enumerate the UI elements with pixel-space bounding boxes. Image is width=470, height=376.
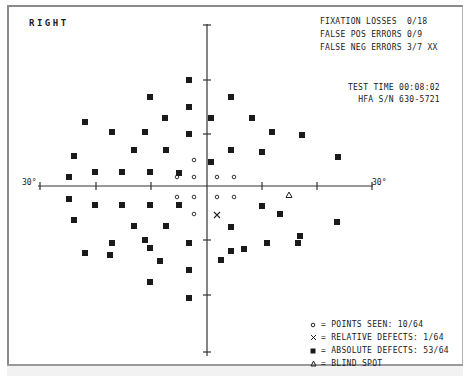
absolute-defect-point (269, 129, 275, 135)
seen-point (232, 195, 236, 199)
absolute-defect-point (107, 252, 113, 258)
legend-relative: = RELATIVE DEFECTS: 1/64 (308, 331, 449, 344)
absolute-defect-point (297, 233, 303, 239)
absolute-defect-point (295, 240, 301, 246)
circle-icon (308, 322, 318, 328)
seen-point (175, 195, 179, 199)
legend-absolute: = ABSOLUTE DEFECTS: 53/64 (308, 344, 449, 357)
absolute-defect-point (147, 169, 153, 175)
absolute-defect-point (109, 129, 115, 135)
absolute-defect-point (176, 170, 182, 176)
seen-point (215, 195, 219, 199)
absolute-defect-point (259, 203, 265, 209)
legend-blind-spot: = BLIND SPOT (308, 357, 449, 370)
absolute-defect-point (142, 129, 148, 135)
absolute-defect-point (66, 196, 72, 202)
absolute-defect-point (71, 153, 77, 159)
absolute-defect-point (186, 131, 192, 137)
absolute-defect-point (163, 223, 169, 229)
absolute-defect-point (249, 115, 255, 121)
absolute-defect-point (109, 240, 115, 246)
absolute-defect-point (335, 154, 341, 160)
absolute-defect-point (208, 159, 214, 165)
triangle-icon (308, 360, 318, 367)
absolute-defect-point (131, 147, 137, 153)
absolute-defect-point (259, 149, 265, 155)
seen-point (192, 212, 196, 216)
seen-point (192, 175, 196, 179)
absolute-defect-point (334, 219, 340, 225)
absolute-defect-point (82, 119, 88, 125)
absolute-defect-point (92, 169, 98, 175)
axis-ticks (40, 25, 372, 352)
absolute-defect-point (228, 224, 234, 230)
absolute-defect-point (147, 202, 153, 208)
absolute-defect-point (142, 237, 148, 243)
absolute-defect-point (157, 258, 163, 264)
absolute-defect-point (119, 202, 125, 208)
absolute-defect-point (147, 279, 153, 285)
absolute-defect-point (208, 115, 214, 121)
absolute-defect-point (147, 94, 153, 100)
test-points (66, 77, 341, 301)
absolute-defect-point (228, 248, 234, 254)
legend-seen: = POINTS SEEN: 10/64 (308, 318, 449, 331)
legend: = POINTS SEEN: 10/64 = RELATIVE DEFECTS:… (308, 318, 449, 370)
absolute-defect-point (228, 94, 234, 100)
absolute-defect-point (186, 240, 192, 246)
absolute-defect-point (218, 257, 224, 263)
x-icon (308, 334, 318, 341)
absolute-defect-point (66, 174, 72, 180)
absolute-defect-point (186, 104, 192, 110)
absolute-defect-point (131, 223, 137, 229)
seen-point (192, 158, 196, 162)
seen-point (215, 175, 219, 179)
absolute-defect-point (186, 267, 192, 273)
absolute-defect-point (186, 295, 192, 301)
absolute-defect-point (71, 217, 77, 223)
square-icon (308, 348, 318, 354)
absolute-defect-point (277, 211, 283, 217)
relative-defect-point (214, 212, 220, 218)
absolute-defect-point (186, 77, 192, 83)
absolute-defect-point (228, 147, 234, 153)
absolute-defect-point (92, 202, 98, 208)
absolute-defect-point (241, 246, 247, 252)
seen-point (192, 195, 196, 199)
absolute-defect-point (163, 147, 169, 153)
seen-point (232, 175, 236, 179)
absolute-defect-point (299, 132, 305, 138)
blind-spot-point (286, 192, 292, 198)
axes (38, 24, 373, 356)
absolute-defect-point (176, 202, 182, 208)
absolute-defect-point (82, 250, 88, 256)
absolute-defect-point (147, 245, 153, 251)
absolute-defect-point (264, 240, 270, 246)
absolute-defect-point (119, 169, 125, 175)
absolute-defect-point (162, 115, 168, 121)
